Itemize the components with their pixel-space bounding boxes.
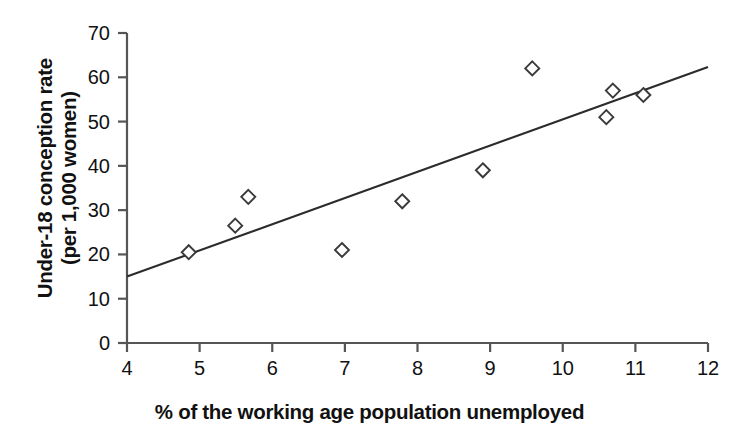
y-tick-label: 10	[60, 287, 110, 310]
x-tick-label: 10	[552, 357, 574, 380]
x-tick-label: 7	[339, 357, 350, 380]
trend-line-segment	[127, 67, 708, 276]
data-point-marker	[228, 219, 242, 233]
trend-line	[127, 67, 708, 276]
y-tick-label: 50	[60, 110, 110, 133]
y-tick-label: 30	[60, 199, 110, 222]
data-point-marker	[636, 88, 650, 102]
data-point-marker	[335, 243, 349, 257]
data-points	[182, 61, 651, 259]
y-tick-label: 0	[60, 332, 110, 355]
x-tick-label: 6	[267, 357, 278, 380]
data-point-marker	[599, 110, 613, 124]
data-point-marker	[606, 84, 620, 98]
axes	[118, 33, 708, 352]
data-point-marker	[476, 163, 490, 177]
plot-area	[0, 0, 739, 448]
y-tick-label: 60	[60, 66, 110, 89]
x-tick-label: 8	[412, 357, 423, 380]
y-tick-label: 70	[60, 22, 110, 45]
y-tick-label: 20	[60, 243, 110, 266]
scatter-chart: Under-18 conception rate (per 1,000 wome…	[0, 0, 739, 448]
data-point-marker	[395, 194, 409, 208]
x-tick-label: 4	[121, 357, 132, 380]
x-axis-label: % of the working age population unemploy…	[0, 400, 739, 424]
y-axis-label-line1: Under-18 conception rate	[33, 58, 56, 298]
data-point-marker	[241, 190, 255, 204]
y-tick-label: 40	[60, 154, 110, 177]
x-tick-label: 12	[697, 357, 719, 380]
x-tick-label: 9	[485, 357, 496, 380]
x-tick-label: 5	[194, 357, 205, 380]
x-tick-label: 11	[625, 357, 646, 380]
data-point-marker	[525, 61, 539, 75]
